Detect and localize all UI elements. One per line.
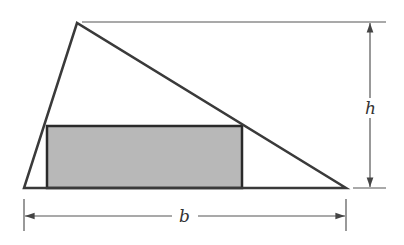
diagram-canvas: h b [0,0,404,245]
base-label: b [179,206,190,226]
height-label: h [365,98,376,118]
inscribed-rectangle [47,126,242,188]
